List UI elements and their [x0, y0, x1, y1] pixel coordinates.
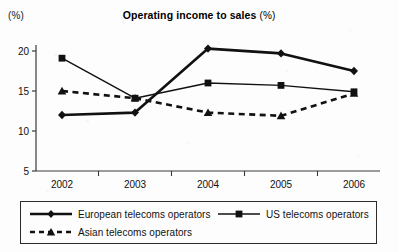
- x-axis-tick-label: 2003: [124, 179, 147, 190]
- data-point-marker: [59, 55, 66, 62]
- x-axis-tick-label: 2004: [197, 179, 220, 190]
- data-point-marker: [205, 80, 212, 87]
- plot-area: 510152020022003200420052006: [0, 0, 398, 200]
- legend-marker-square-icon: [217, 208, 261, 220]
- y-axis-tick-label: 5: [23, 166, 29, 177]
- legend-marker-triangle-icon: [29, 226, 73, 238]
- x-axis-tick-label: 2002: [51, 179, 74, 190]
- data-point-marker: [350, 67, 358, 75]
- legend-marker-diamond-icon: [29, 208, 73, 220]
- legend-item-european: European telecoms operators: [29, 208, 211, 220]
- legend-label-asian: Asian telecoms operators: [78, 227, 192, 238]
- y-axis-tick-label: 15: [18, 86, 30, 97]
- legend-label-us: US telecoms operators: [266, 209, 369, 220]
- legend-item-asian: Asian telecoms operators: [29, 226, 192, 238]
- chart-legend: European telecoms operators US telecoms …: [20, 201, 377, 244]
- series-line: [62, 58, 354, 98]
- legend-label-european: European telecoms operators: [78, 209, 211, 220]
- y-axis-tick-label: 20: [18, 46, 30, 57]
- chart-container: (%) Operating income to sales (%) 510152…: [0, 0, 398, 252]
- legend-item-us: US telecoms operators: [217, 208, 369, 220]
- data-point-marker: [277, 49, 285, 57]
- data-point-marker: [278, 82, 285, 89]
- data-point-marker: [58, 111, 66, 119]
- x-axis-tick-label: 2006: [343, 179, 366, 190]
- y-axis-tick-label: 10: [18, 126, 30, 137]
- x-axis-tick-label: 2005: [270, 179, 293, 190]
